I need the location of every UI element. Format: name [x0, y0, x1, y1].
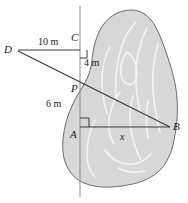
measurement-label-ab: x	[120, 132, 124, 142]
point-label-b: B	[173, 121, 180, 132]
measurement-label-cp: 4 m	[84, 58, 99, 68]
point-label-c: C	[71, 32, 78, 43]
measurement-label-pa: 6 m	[46, 99, 61, 109]
geometry-figure: D C P A B 10 m 4 m 6 m x	[0, 0, 188, 203]
figure-canvas	[0, 0, 188, 203]
point-label-d: D	[4, 44, 12, 55]
point-label-p: P	[71, 83, 78, 94]
measurement-label-dc: 10 m	[38, 37, 58, 47]
point-label-a: A	[70, 129, 77, 140]
